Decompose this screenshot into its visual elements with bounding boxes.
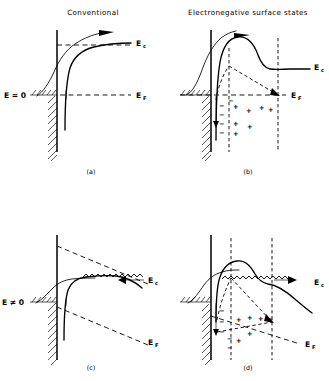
panel-a-caption: (a) [87, 168, 96, 176]
svg-text:c: c [321, 282, 324, 288]
svg-text:+: + [233, 120, 239, 128]
svg-text:c: c [143, 43, 146, 49]
svg-text:F: F [298, 95, 302, 101]
svg-text:c: c [155, 280, 158, 286]
svg-text:E: E [314, 278, 319, 287]
svg-text:E: E [136, 39, 141, 48]
column-title-right: Electronegative surface states [188, 8, 308, 17]
svg-text:−: − [219, 111, 225, 119]
svg-text:+: + [268, 106, 274, 114]
svg-text:−: − [219, 318, 225, 326]
svg-text:+: + [236, 316, 242, 324]
svg-text:+: + [259, 104, 265, 112]
panel-d-caption: (d) [243, 364, 252, 372]
svg-text:F: F [155, 342, 159, 348]
svg-text:F: F [143, 95, 147, 101]
svg-text:−: − [227, 344, 233, 352]
panel-b-caption: (b) [243, 168, 252, 176]
svg-text:E: E [305, 340, 310, 349]
svg-text:+: + [268, 316, 274, 324]
svg-text:+: + [247, 123, 253, 131]
svg-text:−: − [219, 120, 225, 128]
svg-text:+: + [233, 103, 239, 111]
svg-text:E: E [314, 63, 319, 72]
svg-text:E: E [136, 91, 141, 100]
svg-text:−: − [219, 102, 225, 110]
svg-text:+: + [258, 315, 264, 323]
svg-text:−: − [219, 129, 225, 137]
svg-text:+: + [233, 130, 239, 138]
svg-text:F: F [312, 344, 316, 350]
svg-text:+: + [247, 314, 253, 322]
svg-text:−: − [227, 335, 233, 343]
svg-text:E: E [148, 338, 153, 347]
figure-canvas: Conventional Electronegative surface sta… [0, 0, 329, 381]
panel-c-field-label: E ≠ 0 [2, 298, 24, 307]
svg-text:−: − [219, 307, 225, 315]
svg-text:E: E [291, 91, 296, 100]
svg-text:c: c [321, 67, 324, 73]
band-diagram-figure: Conventional Electronegative surface sta… [0, 0, 329, 381]
column-title-left: Conventional [67, 8, 119, 17]
svg-text:+: + [236, 337, 242, 345]
svg-text:+: + [246, 107, 252, 115]
svg-text:E: E [148, 276, 153, 285]
panel-a-field-label: E = 0 [4, 91, 26, 100]
svg-text:−: − [219, 328, 225, 336]
svg-text:+: + [247, 330, 253, 338]
panel-c-caption: (c) [87, 364, 96, 372]
